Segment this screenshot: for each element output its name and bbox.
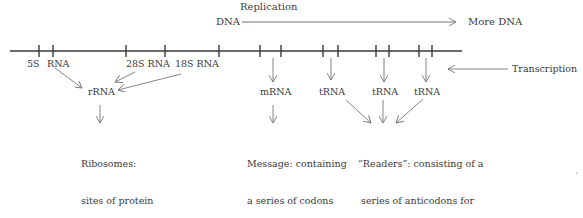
message-description: Message: containing a series of codons w… (247, 134, 349, 218)
readers-line: “Readers”: consisting of a (358, 158, 491, 170)
message-line: Message: containing (247, 158, 349, 170)
ribosomes-line: Ribosomes: (81, 158, 153, 170)
arrow-18s-to-rrna (118, 74, 181, 90)
product-trna-2: tRNA (372, 87, 398, 97)
arrow-28s-to-rrna (115, 72, 135, 82)
stray-dot (576, 172, 578, 174)
product-rrna: rRNA (88, 87, 115, 97)
readers-description: “Readers”: consisting of a series of ant… (358, 134, 491, 218)
gene-label-18s: 18S RNA (175, 59, 219, 69)
product-trna-1: tRNA (319, 87, 345, 97)
product-mrna: mRNA (260, 87, 291, 97)
transcription-label: Transcription (512, 64, 577, 74)
gene-label-5s: 5S (27, 59, 40, 69)
arrow-trna-1-to-readers (346, 100, 371, 123)
ribosomes-line: sites of protein (81, 195, 153, 207)
gene-label-28s: 28S RNA (126, 59, 170, 69)
message-line: a series of codons (247, 195, 349, 207)
readers-line: series of anticodons for (358, 195, 491, 207)
ribosomes-description: Ribosomes: sites of protein synthesis (81, 134, 153, 218)
replication-source-label: DNA (216, 17, 240, 27)
arrow-trna-3-to-readers (396, 99, 423, 123)
gene-label-5s-rna: RNA (47, 59, 69, 69)
arrow-5s-to-rrna (55, 68, 82, 88)
product-trna-3: tRNA (414, 87, 440, 97)
replication-target-label: More DNA (468, 17, 522, 27)
replication-title: Replication (240, 2, 298, 12)
